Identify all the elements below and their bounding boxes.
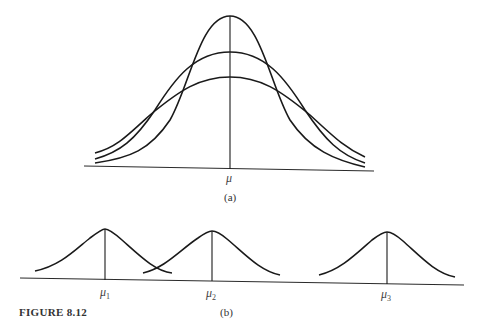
curve-mu1 [35,229,172,273]
mu1-label: μ1 [99,285,110,301]
panel-b-label: (b) [220,306,233,319]
panel-a-label: (a) [224,191,237,204]
figure-canvas: μ (a) μ1 μ2 μ3 (b) FIGURE 8.12 [0,0,483,336]
panel-b-axis [20,278,464,285]
figure-caption: FIGURE 8.12 [19,306,87,318]
mu2-label: μ2 [205,286,216,302]
mu3-label: μ3 [380,287,391,303]
panel-a: μ (a) [84,16,374,204]
panel-a-mean-label: μ [225,171,232,185]
